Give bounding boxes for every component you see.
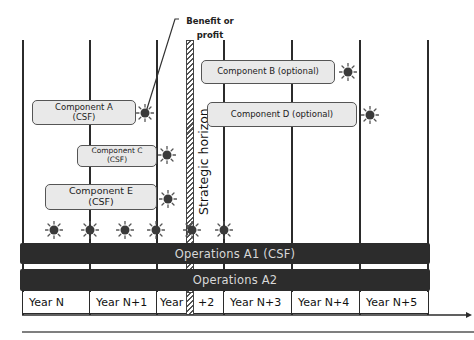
year-cell-n: Year N [22,292,91,314]
year-label: Year [160,296,183,309]
component-e-subtitle: (CSF) [69,197,133,208]
year-label: Year N+1 [96,296,147,309]
component-a: Component A (CSF) [32,100,136,125]
year-label: +2 [198,296,214,309]
component-c: Component C (CSF) [77,145,157,167]
component-b: Component B (optional) [201,60,335,84]
operations-a1-label: Operations A1 (CSF) [175,247,295,261]
sun-icon [45,221,63,239]
component-a-subtitle: (CSF) [55,113,113,123]
operations-a1-bar: Operations A1 (CSF) [20,243,430,264]
sun-icon [116,221,134,239]
sun-icon [159,190,177,208]
sun-icon [136,104,154,122]
sun-icon [147,221,165,239]
year-label: Year N+5 [366,296,417,309]
sun-icon [158,146,176,164]
year-cell-n1: Year N+1 [89,292,158,314]
sun-icon [215,221,233,239]
component-d-title: Component D (optional) [231,110,333,120]
year-cell-n3: Year N+3 [223,292,293,314]
year-cell-n2-left: Year [156,292,187,314]
strategic-horizon-bar-overlay [186,292,194,315]
year-label: Year N [29,296,64,309]
operations-a2-bar: Operations A2 [20,269,430,291]
sun-icon [361,106,379,124]
component-b-title: Component B (optional) [217,67,319,77]
sun-icon [183,221,201,239]
component-d: Component D (optional) [207,102,357,127]
sun-icon [81,221,99,239]
year-label: Year N+3 [230,296,281,309]
year-label: Year N+4 [298,296,349,309]
year-cell-n5: Year N+5 [359,292,429,314]
year-cell-n4: Year N+4 [291,292,361,314]
sun-icon [339,63,357,81]
year-cell-n2-right: +2 [193,292,225,314]
component-c-subtitle: (CSF) [91,156,142,165]
component-e: Component E (CSF) [45,184,157,210]
operations-a2-label: Operations A2 [193,273,278,287]
